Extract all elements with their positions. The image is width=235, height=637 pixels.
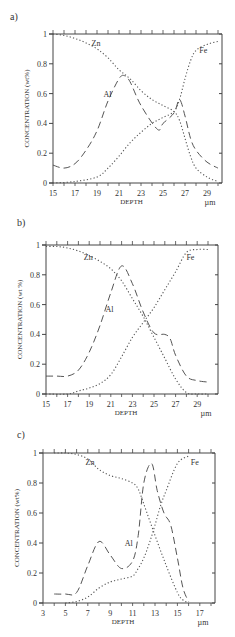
x-tick-label: 29 <box>193 400 201 409</box>
x-tick-label: 21 <box>107 400 115 409</box>
y-tick-label: 0.4 <box>30 330 40 339</box>
x-axis-unit: µm <box>201 409 213 418</box>
series-label-al: Al <box>125 539 134 548</box>
x-axis-unit: µm <box>205 198 217 207</box>
x-tick-label: 17 <box>196 609 204 618</box>
x-tick-label: 19 <box>93 189 101 198</box>
y-tick-label: 0.8 <box>27 479 37 488</box>
x-tick-label: 25 <box>159 189 167 198</box>
series-label-fe: Fe <box>186 253 194 262</box>
y-axis-label: CONCENTRATION (wt%) <box>23 69 31 148</box>
x-tick-label: 29 <box>203 189 211 198</box>
y-axis-label: CONCENTRATION (wt%) <box>13 488 21 567</box>
x-tick-label: 25 <box>150 400 158 409</box>
x-tick-label: 15 <box>42 400 50 409</box>
y-tick-label: 0.6 <box>27 509 37 518</box>
series-label-al: Al <box>105 305 114 314</box>
chart-panel-c: c) 00.20.40.60.81357911131517DEPTHµmCONC… <box>0 420 235 637</box>
chart-panel-b: b) 00.20.40.60.811517192123252729DEPTHµm… <box>0 210 235 420</box>
series-label-fe: Fe <box>191 458 199 467</box>
x-tick-label: 5 <box>63 609 67 618</box>
x-tick-label: 23 <box>128 400 136 409</box>
y-tick-label: 0.8 <box>30 271 40 280</box>
y-tick-label: 1 <box>43 30 47 39</box>
x-tick-label: 17 <box>64 400 72 409</box>
series-label-fe: Fe <box>199 46 207 55</box>
x-tick-label: 3 <box>41 609 45 618</box>
series-label-zn: Zn <box>84 253 93 262</box>
y-tick-label: 0.2 <box>27 569 37 578</box>
chart-panel-a: a) 00.20.40.60.811517192123252729DEPTHµm… <box>0 0 235 210</box>
series-zn-line <box>53 34 218 182</box>
y-axis-label: CONCENTRATION (wt %) <box>16 279 24 359</box>
y-tick-label: 0.2 <box>37 149 47 158</box>
y-tick-label: 0.4 <box>27 539 37 548</box>
series-al-line <box>46 266 208 382</box>
x-tick-label: 13 <box>151 609 159 618</box>
series-zn-line <box>54 453 188 603</box>
x-tick-label: 11 <box>129 609 137 618</box>
concentration-chart-a: 00.20.40.60.811517192123252729DEPTHµmCON… <box>0 0 235 210</box>
y-tick-label: 0.4 <box>37 119 47 128</box>
series-label-al: Al <box>104 90 113 99</box>
x-axis-label: DEPTH <box>115 409 138 417</box>
x-tick-label: 15 <box>173 609 181 618</box>
x-tick-label: 27 <box>181 189 189 198</box>
series-label-zn: Zn <box>86 458 95 467</box>
panel-label-c: c) <box>17 429 25 440</box>
x-tick-label: 23 <box>137 189 145 198</box>
x-axis-unit: µm <box>198 618 210 627</box>
x-axis-label: DEPTH <box>112 618 135 626</box>
series-al-line <box>53 75 218 168</box>
panel-label-a: a) <box>10 11 18 22</box>
panel-label-b: b) <box>17 217 25 228</box>
series-al-line <box>54 463 188 601</box>
x-tick-label: 17 <box>71 189 79 198</box>
y-tick-label: 1 <box>33 449 37 458</box>
x-axis-label: DEPTH <box>120 198 143 206</box>
x-tick-label: 21 <box>115 189 123 198</box>
series-label-zn: Zn <box>92 39 101 48</box>
y-tick-label: 1 <box>36 241 40 250</box>
y-tick-label: 0.2 <box>30 360 40 369</box>
y-tick-label: 0 <box>33 599 37 608</box>
y-tick-label: 0.8 <box>37 60 47 69</box>
y-tick-label: 0 <box>36 390 40 399</box>
y-tick-label: 0.6 <box>37 90 47 99</box>
x-tick-label: 15 <box>49 189 57 198</box>
y-tick-label: 0.6 <box>30 301 40 310</box>
x-tick-label: 27 <box>172 400 180 409</box>
x-tick-label: 7 <box>86 609 90 618</box>
concentration-chart-b: 00.20.40.60.811517192123252729DEPTHµmCON… <box>0 210 235 420</box>
series-fe-line <box>65 456 188 603</box>
concentration-chart-c: 00.20.40.60.81357911131517DEPTHµmCONCENT… <box>0 420 235 637</box>
x-tick-label: 19 <box>85 400 93 409</box>
x-tick-label: 9 <box>108 609 112 618</box>
y-tick-label: 0 <box>43 179 47 188</box>
